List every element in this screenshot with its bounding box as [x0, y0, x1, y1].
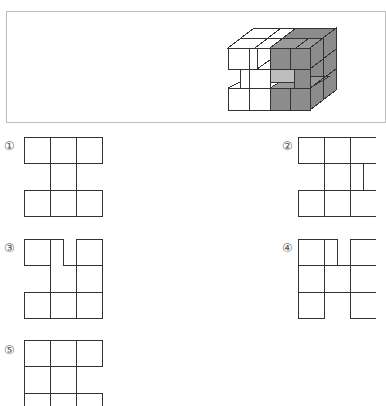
option-5-net[interactable] — [24, 340, 104, 406]
cube-stack-figure — [226, 20, 341, 112]
option-2-label: ② — [282, 139, 293, 153]
option-1-label: ① — [4, 139, 15, 153]
option-4-label: ④ — [282, 241, 293, 255]
option-3-net[interactable] — [24, 239, 104, 321]
option-4-net[interactable] — [298, 239, 376, 321]
option-2-net[interactable] — [298, 137, 376, 219]
option-5-label: ⑤ — [4, 343, 15, 357]
option-3-label: ③ — [4, 241, 15, 255]
option-1-net[interactable] — [24, 137, 104, 219]
